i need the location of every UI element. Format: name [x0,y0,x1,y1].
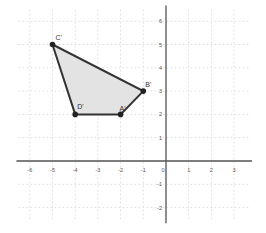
x-tick-label: -1 [141,167,146,173]
vertex-point [50,42,56,48]
vertex-point [141,88,147,94]
vertex-label: C' [56,34,62,41]
x-tick-label: -5 [50,167,55,173]
x-tick-label: 1 [187,167,190,173]
x-tick-label: 2 [210,167,213,173]
x-tick-label: 0 [161,167,164,173]
y-tick-label: 5 [159,42,162,48]
y-tick-label: -2 [157,205,162,211]
vertex-label: A' [120,105,126,112]
vertex-label: D' [77,103,83,110]
x-tick-label: -6 [27,167,32,173]
x-tick-label: 3 [233,167,236,173]
y-tick-label: 3 [159,88,162,94]
coordinate-plane: -6-5-4-3-2-10123-2-1123456 C'B'A'D' [0,0,266,233]
vertex-point [118,112,124,118]
y-tick-label: 1 [159,135,162,141]
y-tick-label: 6 [159,18,162,24]
vertex-label: B' [145,81,151,88]
grid-lines [18,10,250,220]
y-tick-label: 4 [159,65,162,71]
y-tick-label: -1 [157,181,162,187]
x-tick-label: -4 [73,167,78,173]
x-tick-label: -2 [118,167,123,173]
vertex-point [72,112,78,118]
y-tick-label: 2 [159,111,162,117]
x-tick-label: -3 [95,167,100,173]
